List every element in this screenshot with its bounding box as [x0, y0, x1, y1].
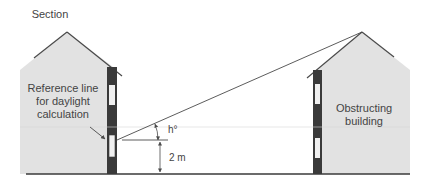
reference-label-line3: calculation — [37, 108, 89, 120]
height-label: 2 m — [169, 152, 186, 163]
angle-label: h° — [168, 124, 178, 135]
reference-label-line2: for daylight — [36, 95, 90, 107]
angle-arc — [155, 124, 158, 140]
obstructing-label-line1: Obstructing — [336, 102, 392, 114]
right-upper-window — [315, 84, 320, 104]
daylight-section-diagram: Section Reference line for daylight calc… — [0, 0, 427, 191]
section-title: Section — [32, 8, 69, 20]
reference-label-line1: Reference line — [28, 82, 99, 94]
left-upper-window — [109, 85, 115, 105]
left-lower-window — [109, 135, 115, 157]
left-wall — [107, 67, 117, 174]
obstructing-label-line2: building — [345, 115, 383, 127]
right-lower-window — [315, 138, 320, 158]
